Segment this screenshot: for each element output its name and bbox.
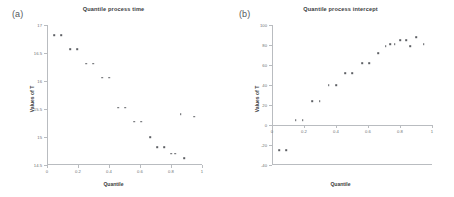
panel-b-y-tick bbox=[269, 105, 272, 106]
data-point bbox=[352, 72, 354, 74]
panel-b-x-tick bbox=[272, 125, 273, 128]
panel-b-x-tick-label: 1 bbox=[431, 129, 433, 134]
data-point bbox=[295, 119, 297, 121]
panel-b-x-axis-label: Quantile bbox=[227, 181, 454, 187]
data-point bbox=[193, 116, 195, 118]
data-point bbox=[385, 45, 387, 47]
panel-a-x-axis-label: Quantile bbox=[0, 181, 227, 187]
panel-b-x-tick bbox=[368, 125, 369, 128]
panel-b-x-tick-label: 0.2 bbox=[301, 129, 307, 134]
panel-b-y-tick-label: 0 bbox=[265, 123, 267, 128]
data-point bbox=[278, 149, 280, 151]
panel-a-x-tick bbox=[47, 165, 48, 168]
panel-b-x-tick bbox=[336, 125, 337, 128]
data-point bbox=[117, 107, 119, 109]
data-point bbox=[328, 84, 330, 86]
panel-a-y-tick-label: 17 bbox=[37, 23, 42, 28]
panel-b-y-tick bbox=[269, 85, 272, 86]
panel-b-y-tick-label: 40 bbox=[262, 83, 267, 88]
data-point bbox=[344, 72, 346, 74]
panel-a-x-tick bbox=[78, 165, 79, 168]
data-point bbox=[415, 36, 417, 38]
panel-a-y-tick-label: 15 bbox=[37, 135, 42, 140]
quantile-process-figure: (a) Quantile process time Values of T Qu… bbox=[0, 0, 454, 197]
data-point bbox=[85, 63, 87, 65]
panel-a-x-axis bbox=[47, 164, 202, 165]
panel-b-y-tick bbox=[269, 145, 272, 146]
panel-b-x-tick bbox=[304, 125, 305, 128]
data-point bbox=[423, 43, 425, 45]
panel-a-y-tick-label: 16.5 bbox=[34, 51, 42, 56]
panel-a-x-tick-label: 0 bbox=[46, 169, 48, 174]
data-point bbox=[133, 121, 135, 123]
panel-a-x-tick bbox=[171, 165, 172, 168]
panel-a-y-tick bbox=[44, 53, 47, 54]
data-point bbox=[140, 121, 142, 123]
panel-a-y-tick-label: 14.5 bbox=[34, 163, 42, 168]
data-point bbox=[183, 157, 185, 159]
panel-a-y-tick-label: 15.5 bbox=[34, 107, 42, 112]
panel-b: (b) Quantile process intercept Values of… bbox=[227, 0, 454, 197]
data-point bbox=[405, 39, 407, 41]
data-point bbox=[163, 146, 165, 148]
data-point bbox=[60, 34, 62, 36]
panel-b-x-tick bbox=[400, 125, 401, 128]
data-point bbox=[180, 113, 182, 115]
panel-a-x-tick-label: 1 bbox=[201, 169, 203, 174]
panel-a: (a) Quantile process time Values of T Qu… bbox=[0, 0, 227, 197]
panel-a-y-axis bbox=[47, 25, 48, 165]
panel-b-zero-axis bbox=[272, 125, 432, 126]
data-point bbox=[286, 149, 288, 151]
panel-a-title: Quantile process time bbox=[0, 6, 227, 12]
panel-b-y-axis bbox=[272, 25, 273, 165]
data-point bbox=[92, 63, 94, 65]
data-point bbox=[76, 48, 78, 50]
panel-a-y-tick-label: 16 bbox=[37, 79, 42, 84]
data-point bbox=[156, 146, 158, 148]
data-point bbox=[124, 107, 126, 109]
data-point bbox=[149, 136, 151, 138]
panel-b-y-tick-label: 60 bbox=[262, 63, 267, 68]
panel-b-y-tick-label: 20 bbox=[262, 103, 267, 108]
panel-b-plot-area: -40-2002040608010000.20.40.60.81 bbox=[272, 25, 432, 165]
data-point bbox=[170, 153, 172, 155]
panel-a-x-tick-label: 0.2 bbox=[75, 169, 81, 174]
panel-b-x-tick-label: 0.8 bbox=[397, 129, 403, 134]
panel-b-x-tick-label: 0.6 bbox=[365, 129, 371, 134]
data-point bbox=[409, 45, 411, 47]
data-point bbox=[390, 43, 392, 45]
data-point bbox=[361, 62, 363, 64]
panel-a-y-tick bbox=[44, 109, 47, 110]
panel-b-y-tick bbox=[269, 25, 272, 26]
panel-b-title: Quantile process intercept bbox=[227, 6, 454, 12]
panel-a-y-tick bbox=[44, 81, 47, 82]
panel-a-x-tick-label: 0.6 bbox=[137, 169, 143, 174]
data-point bbox=[175, 153, 177, 155]
data-point bbox=[399, 39, 401, 41]
panel-b-y-tick bbox=[269, 65, 272, 66]
panel-b-y-tick-label: 100 bbox=[260, 23, 267, 28]
panel-a-x-tick bbox=[109, 165, 110, 168]
panel-b-y-tick-label: -40 bbox=[261, 163, 267, 168]
panel-a-x-tick-label: 0.4 bbox=[106, 169, 112, 174]
panel-b-x-tick-label: 0.4 bbox=[333, 129, 339, 134]
data-point bbox=[335, 84, 337, 86]
data-point bbox=[53, 34, 55, 36]
panel-b-y-tick bbox=[269, 165, 272, 166]
data-point bbox=[378, 52, 380, 54]
data-point bbox=[319, 100, 321, 102]
data-point bbox=[312, 100, 314, 102]
panel-b-y-tick bbox=[269, 45, 272, 46]
data-point bbox=[368, 62, 370, 64]
panel-a-x-tick bbox=[202, 165, 203, 168]
data-point bbox=[394, 43, 396, 45]
panel-b-frame-bottom bbox=[272, 164, 432, 165]
panel-a-x-tick-label: 0.8 bbox=[168, 169, 174, 174]
panel-a-x-tick bbox=[140, 165, 141, 168]
data-point bbox=[108, 77, 110, 79]
panel-b-y-tick-label: 80 bbox=[262, 43, 267, 48]
data-point bbox=[69, 48, 71, 50]
data-point bbox=[302, 119, 304, 121]
data-point bbox=[101, 77, 103, 79]
panel-b-x-tick bbox=[432, 125, 433, 128]
